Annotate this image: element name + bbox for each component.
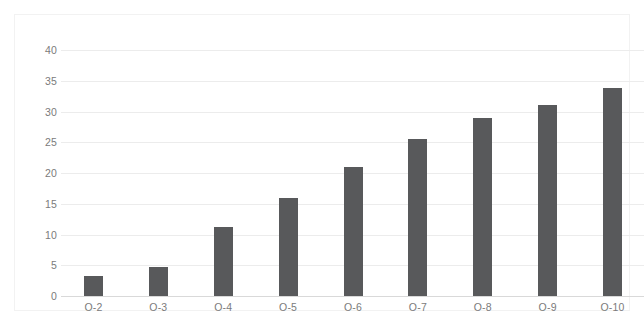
y-axis-tick-label: 40: [23, 44, 57, 56]
x-axis-baseline: [61, 296, 644, 297]
x-axis-tick-label: O-6: [344, 301, 362, 313]
x-axis-tick-label: O-10: [600, 301, 624, 313]
x-axis-tick-label: O-2: [84, 301, 102, 313]
y-axis-tick-label: 20: [23, 167, 57, 179]
bar: [538, 105, 557, 296]
plot-area: [61, 50, 644, 296]
x-axis-tick-label: O-3: [149, 301, 167, 313]
bar: [84, 276, 103, 296]
chart-frame: 0510152025303540 O-2O-3O-4O-5O-6O-7O-8O-…: [14, 14, 630, 311]
x-axis-tick-label: O-9: [539, 301, 557, 313]
bar: [149, 267, 168, 296]
chart-screenshot: 0510152025303540 O-2O-3O-4O-5O-6O-7O-8O-…: [0, 0, 644, 328]
y-axis-tick-label: 30: [23, 106, 57, 118]
bar: [408, 139, 427, 296]
y-axis-tick-label: 15: [23, 198, 57, 210]
x-axis-tick-labels: O-2O-3O-4O-5O-6O-7O-8O-9O-10: [61, 301, 644, 321]
x-axis-tick-label: O-5: [279, 301, 297, 313]
y-axis-tick-label: 25: [23, 136, 57, 148]
bar: [603, 88, 622, 296]
y-axis-tick-label: 0: [23, 290, 57, 302]
y-axis-tick-label: 35: [23, 75, 57, 87]
bar: [214, 227, 233, 296]
y-axis-tick-label: 10: [23, 229, 57, 241]
y-axis-tick-labels: 0510152025303540: [21, 50, 57, 296]
bar: [279, 198, 298, 296]
bar: [473, 118, 492, 296]
x-axis-tick-label: O-8: [474, 301, 492, 313]
gridline: [61, 81, 644, 82]
bar: [344, 167, 363, 296]
x-axis-tick-label: O-4: [214, 301, 232, 313]
x-axis-tick-label: O-7: [409, 301, 427, 313]
gridline: [61, 50, 644, 51]
y-axis-tick-label: 5: [23, 259, 57, 271]
